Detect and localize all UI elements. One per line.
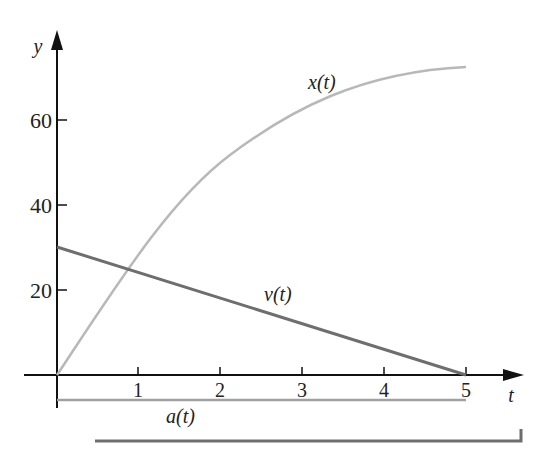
x-tick-label-3: 3 [297, 379, 307, 401]
y-axis-label: y [32, 35, 43, 58]
v-line-label: v(t) [264, 283, 292, 306]
x-tick-label-4: 4 [379, 379, 389, 401]
x-tick-label-2: 2 [215, 379, 225, 401]
a-line-label: a(t) [166, 405, 195, 428]
y-axis-arrow-icon [51, 30, 63, 50]
kinematics-chart: 60 40 20 1 2 3 4 5 y t x(t) v(t) a(t) [0, 0, 547, 473]
y-tick-label-60: 60 [30, 108, 52, 133]
x-axis-label: t [508, 384, 514, 406]
bottom-bracket [95, 429, 521, 441]
y-tick-label-40: 40 [30, 193, 52, 218]
x-tick-label-5: 5 [461, 379, 471, 401]
x-curve [57, 67, 466, 375]
x-axis-arrow-icon [503, 369, 524, 381]
x-curve-label: x(t) [307, 71, 336, 94]
y-tick-label-20: 20 [30, 278, 52, 303]
x-tick-label-1: 1 [133, 379, 143, 401]
v-line [57, 247, 466, 375]
